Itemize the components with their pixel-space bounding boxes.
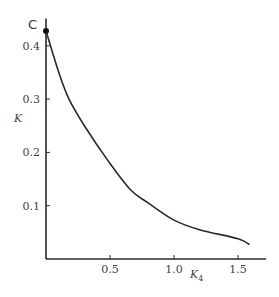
chart: 0.51.01.50.10.20.30.4 C K K4	[0, 0, 279, 297]
x-tick-label: 1.5	[229, 263, 247, 276]
y-tick-label: 0.4	[23, 40, 41, 53]
x-tick-label: 1.0	[165, 263, 183, 276]
point-c-marker	[43, 28, 49, 34]
y-tick-label: 0.1	[23, 200, 41, 213]
point-c-label: C	[28, 17, 37, 32]
y-tick-label: 0.2	[23, 146, 41, 159]
x-axis-label: K4	[189, 268, 203, 283]
x-tick-label: 0.5	[101, 263, 119, 276]
axes	[46, 18, 266, 259]
ticks: 0.51.01.50.10.20.30.4	[23, 40, 247, 276]
y-axis-label: K	[13, 112, 23, 125]
y-tick-label: 0.3	[23, 93, 41, 106]
data-curve	[46, 31, 250, 245]
